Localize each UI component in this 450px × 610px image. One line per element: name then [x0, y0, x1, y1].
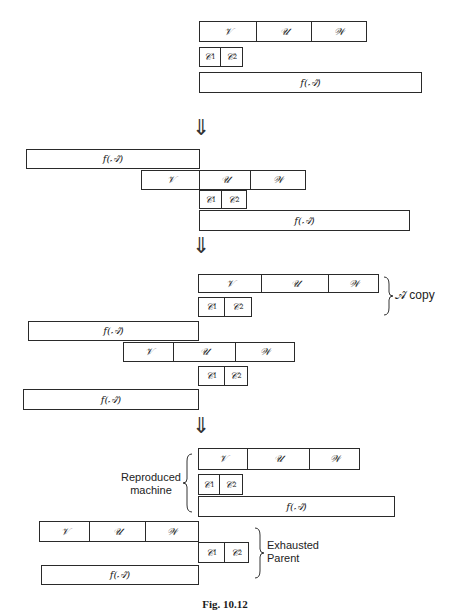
cell-w: 𝒲: [310, 449, 359, 469]
cell-v: 𝒱: [142, 171, 200, 189]
reproduced-machine-label: Reproduced machine: [120, 471, 182, 497]
cell-v: 𝒱: [40, 522, 90, 541]
stage3-copy-c-tape: 𝒞1 𝒞2: [198, 297, 252, 317]
cell-u: 𝒰: [200, 171, 251, 189]
cell-c1: 𝒞1: [200, 191, 222, 208]
stage3-f-tape-lower: f(𝒜̂): [23, 389, 199, 410]
stage3-copy-vuw-tape: 𝒱 𝒰 𝒲: [198, 274, 379, 293]
exhausted-parent-label: Exhausted Parent: [267, 539, 319, 565]
cell-c2: 𝒞2: [225, 543, 248, 562]
right-brace-icon: [254, 527, 264, 579]
cell-w: 𝒲: [236, 343, 294, 361]
stage4-reproduced-c-tape: 𝒞1 𝒞2: [198, 474, 243, 495]
cell-w: 𝒲: [251, 171, 305, 189]
cell-c1: 𝒞1: [199, 298, 225, 316]
figure-caption: Fig. 10.12: [0, 598, 450, 610]
cell-v: 𝒱: [124, 343, 174, 361]
cell-v: 𝒱: [199, 275, 262, 292]
cell-u: 𝒰: [262, 275, 329, 292]
right-brace-icon: [383, 276, 395, 316]
stage1-f-tape: f(𝒜̂): [199, 72, 422, 93]
stage4-parent-vuw-tape: 𝒱 𝒰 𝒲: [39, 521, 199, 542]
cell-c1: 𝒞1: [199, 543, 225, 562]
stage2-f-tape-right: f(𝒜̂): [199, 210, 410, 231]
cell-u: 𝒰: [90, 522, 146, 541]
cell-w: 𝒲: [146, 522, 198, 541]
cell-c2: 𝒞2: [222, 191, 246, 208]
cell-c2: 𝒞2: [220, 475, 242, 494]
down-arrow-icon: ⇓: [192, 415, 210, 437]
cell-c2: 𝒞2: [221, 48, 242, 66]
stage4-parent-f-tape: f(𝒜̂): [41, 565, 199, 585]
stage2-vuw-tape: 𝒱 𝒰 𝒲: [141, 170, 306, 190]
stage2-c-tape: 𝒞1 𝒞2: [199, 190, 247, 209]
stage4-reproduced-vuw-tape: 𝒱 𝒰 𝒲: [198, 448, 360, 470]
left-brace-icon: [183, 453, 193, 513]
cell-u: 𝒰: [174, 343, 236, 361]
cell-c1: 𝒞1: [199, 367, 225, 385]
cell-w: 𝒲: [329, 275, 378, 292]
cell-c2: 𝒞2: [225, 367, 247, 385]
stage1-c-tape: 𝒞1 𝒞2: [199, 47, 243, 67]
cell-u: 𝒰: [257, 22, 312, 41]
stage4-reproduced-f-tape: f(𝒜̂): [198, 496, 395, 517]
stage3-c-tape: 𝒞1 𝒞2: [198, 366, 248, 386]
cell-c1: 𝒞1: [199, 475, 220, 494]
copy-label: 𝒜̂ copy: [395, 289, 435, 302]
cell-u: 𝒰: [248, 449, 310, 469]
stage3-vuw-tape: 𝒱 𝒰 𝒲: [123, 342, 295, 362]
stage4-parent-c-tape: 𝒞1 𝒞2: [198, 542, 249, 563]
stage3-f-tape-upper: f(𝒜̂): [28, 321, 199, 341]
cell-c2: 𝒞2: [225, 298, 251, 316]
stage1-vuw-tape: 𝒱 𝒰 𝒲: [199, 21, 367, 42]
cell-v: 𝒱: [199, 449, 248, 469]
down-arrow-icon: ⇓: [192, 117, 210, 139]
down-arrow-icon: ⇓: [192, 235, 210, 257]
stage2-f-tape-left: f(𝒜̂): [26, 149, 200, 169]
cell-v: 𝒱: [200, 22, 257, 41]
cell-w: 𝒲: [312, 22, 366, 41]
cell-c1: 𝒞1: [200, 48, 221, 66]
